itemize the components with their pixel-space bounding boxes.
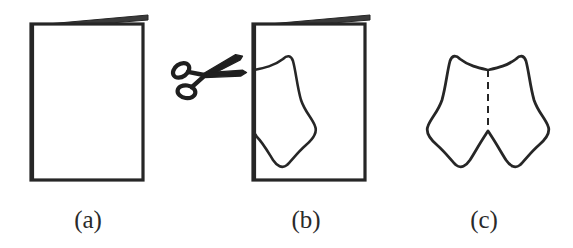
panel-a-label: (a) — [74, 206, 102, 234]
figure-canvas: (a) — [0, 0, 573, 248]
figure-root: (a) — [0, 0, 573, 248]
panel-b-label: (b) — [291, 206, 320, 234]
panel-a-sheet-front — [31, 24, 143, 180]
panel-c-label: (c) — [470, 206, 498, 234]
